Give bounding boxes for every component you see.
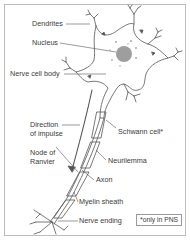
label-axon: Axon	[96, 176, 112, 184]
cell-body-outline	[76, 23, 168, 118]
label-myelin-sheath: Myelin sheath	[79, 198, 123, 206]
label-direction-1: Direction	[30, 121, 58, 129]
label-cell-body: Nerve cell body	[10, 70, 60, 78]
label-direction-2: of impulse	[30, 130, 63, 138]
label-dendrites: Dendrites	[32, 20, 63, 28]
nucleus-shape	[116, 46, 132, 62]
label-schwann-cell: Schwann cell*	[118, 128, 163, 136]
label-neurilemma: Neurilemma	[108, 157, 147, 165]
label-node-1: Node of	[30, 149, 55, 157]
neuron-illustration	[0, 0, 190, 244]
footnote-box: *only in PNS	[136, 214, 182, 226]
label-nerve-ending: Nerve ending	[79, 217, 122, 225]
label-node-2: Ranvier	[30, 158, 55, 166]
label-nucleus: Nucleus	[32, 39, 58, 47]
